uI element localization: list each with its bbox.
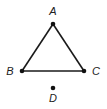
point-c: [82, 69, 87, 74]
label-d: D: [49, 92, 57, 104]
segment-ca: [53, 24, 84, 71]
point-b: [20, 69, 25, 74]
segment-ab: [22, 24, 53, 71]
label-b: B: [6, 65, 13, 77]
triangle-abc: [22, 24, 84, 71]
label-a: A: [48, 5, 56, 17]
point-d: [51, 86, 56, 91]
label-c: C: [92, 65, 100, 77]
triangle-diagram: A B C D: [0, 0, 107, 109]
point-a: [51, 22, 56, 27]
